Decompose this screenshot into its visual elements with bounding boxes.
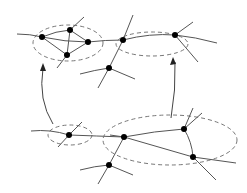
node — [85, 39, 91, 45]
arrowhead-icon — [170, 57, 176, 65]
arrow-up-left — [42, 68, 53, 124]
arrow-up-right — [171, 62, 175, 118]
cluster-ellipse — [103, 115, 237, 165]
node — [121, 134, 127, 140]
top-left-cluster — [17, 17, 123, 68]
node — [120, 37, 126, 43]
node — [181, 126, 187, 132]
node — [106, 162, 112, 168]
node — [106, 65, 112, 71]
node — [172, 32, 178, 38]
node — [64, 52, 70, 58]
bottom-right-cluster — [80, 108, 237, 184]
node — [190, 154, 196, 160]
arrowhead-icon — [40, 63, 46, 71]
bottom-left-cluster — [31, 122, 124, 147]
top-right-cluster — [80, 15, 217, 88]
coarsening-diagram — [0, 0, 247, 193]
node — [39, 34, 45, 40]
node — [67, 27, 73, 33]
node — [66, 132, 72, 138]
